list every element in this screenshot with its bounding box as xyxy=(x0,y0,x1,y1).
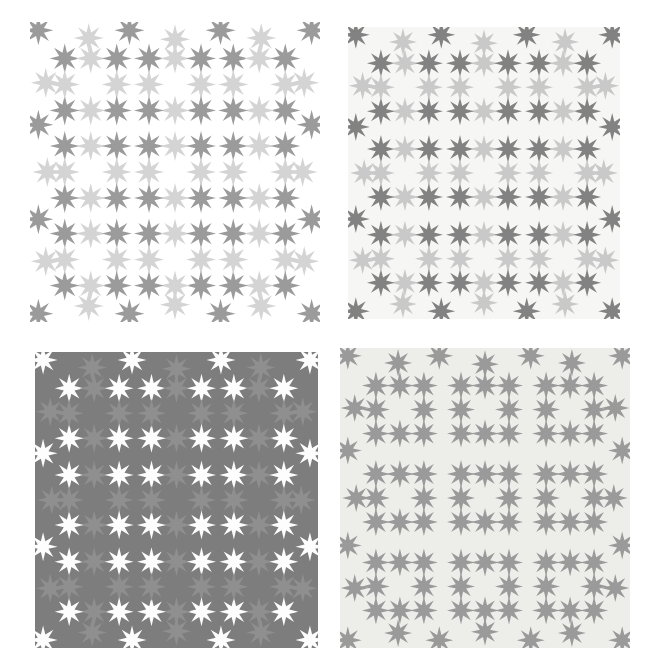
star-perimeter-icon xyxy=(598,297,620,319)
star-corner-icon xyxy=(219,597,248,626)
star-corner-icon xyxy=(367,183,395,211)
star-corner-icon xyxy=(362,508,390,536)
star-edge-icon xyxy=(105,486,134,515)
star-perimeter-icon xyxy=(36,574,65,603)
star-perimeter-icon xyxy=(348,297,370,319)
star-perimeter-icon xyxy=(349,72,377,100)
star-edge-icon xyxy=(391,221,419,249)
star-corner-icon xyxy=(218,183,248,213)
star-perimeter-icon xyxy=(342,484,370,512)
panel-top-left[interactable] xyxy=(30,22,320,322)
star-perimeter-icon xyxy=(118,625,147,648)
star-edge-icon xyxy=(134,245,164,275)
star-perimeter-icon xyxy=(288,397,317,426)
star-corner-icon xyxy=(186,271,216,301)
star-ring xyxy=(447,460,523,536)
star-corner-icon xyxy=(219,424,248,453)
star-perimeter-icon xyxy=(513,27,541,49)
star-edge-icon xyxy=(134,157,164,187)
star-corner-icon xyxy=(580,420,608,448)
star-corner-icon xyxy=(137,511,166,540)
star-perimeter-icon xyxy=(551,290,579,318)
panel-bottom-right-svg xyxy=(340,348,630,648)
star-edge-icon xyxy=(532,484,560,512)
star-perimeter-icon xyxy=(246,23,276,53)
star-edge-icon xyxy=(410,484,438,512)
star-perimeter-icon xyxy=(384,349,412,377)
star-edge-icon xyxy=(494,159,522,187)
star-ring-group xyxy=(50,43,301,300)
star-corner-icon xyxy=(187,374,216,403)
star-corner-icon xyxy=(415,97,443,125)
star-perimeter-icon xyxy=(206,625,235,648)
star-perimeter-icon xyxy=(517,626,545,648)
star-perimeter-icon xyxy=(160,290,190,320)
star-corner-icon xyxy=(137,461,166,490)
star-corner-icon xyxy=(218,95,248,125)
star-corner-icon xyxy=(573,49,601,77)
star-edge-icon xyxy=(494,245,522,273)
star-edge-icon xyxy=(219,486,248,515)
star-perimeter-icon xyxy=(30,299,53,322)
star-perimeter-icon xyxy=(295,532,318,561)
panel-bottom-left[interactable] xyxy=(35,352,318,648)
star-ring xyxy=(447,548,523,624)
star-perimeter-icon xyxy=(348,27,370,49)
panel-top-right[interactable] xyxy=(348,27,620,319)
star-ring xyxy=(219,374,298,453)
star-ring xyxy=(137,547,216,626)
star-corner-icon xyxy=(446,269,474,297)
star-edge-icon xyxy=(556,548,584,576)
star-corner-icon xyxy=(50,43,80,73)
star-perimeter-icon xyxy=(295,352,318,375)
star-edge-icon xyxy=(549,135,577,163)
star-corner-icon xyxy=(495,420,523,448)
star-edge-icon xyxy=(556,372,584,400)
star-corner-icon xyxy=(105,374,134,403)
star-edge-icon xyxy=(386,548,414,576)
star-edge-icon xyxy=(76,131,106,161)
star-corner-icon xyxy=(102,183,132,213)
star-edge-icon xyxy=(160,95,190,125)
star-corner-icon xyxy=(532,596,560,624)
star-ring xyxy=(362,460,438,536)
star-perimeter-icon xyxy=(32,157,62,187)
star-perimeter-icon xyxy=(427,297,455,319)
star-edge-icon xyxy=(447,396,475,424)
star-perimeter-icon xyxy=(295,439,318,468)
star-corner-icon xyxy=(580,548,608,576)
star-corner-icon xyxy=(55,511,84,540)
star-edge-icon xyxy=(80,597,109,626)
star-edge-icon xyxy=(386,372,414,400)
star-corner-icon xyxy=(270,183,300,213)
panel-top-left-canvas xyxy=(30,22,320,322)
star-corner-icon xyxy=(269,597,298,626)
star-corner-icon xyxy=(415,135,443,163)
star-ring xyxy=(218,43,300,125)
star-corner-icon xyxy=(446,221,474,249)
star-corner-icon xyxy=(525,135,553,163)
star-edge-icon xyxy=(76,95,106,125)
star-perimeter-icon xyxy=(608,348,630,370)
star-ring xyxy=(446,135,522,211)
star-corner-icon xyxy=(525,221,553,249)
star-perimeter-icon xyxy=(598,113,620,141)
panel-bottom-right[interactable] xyxy=(340,348,630,648)
star-corner-icon xyxy=(186,131,216,161)
star-perimeter-icon xyxy=(35,352,58,375)
star-perimeter-icon xyxy=(289,68,319,98)
star-perimeter-icon xyxy=(118,352,147,375)
star-corner-icon xyxy=(573,183,601,211)
star-perimeter-icon xyxy=(600,484,628,512)
star-ring xyxy=(525,221,601,297)
star-perimeter-icon xyxy=(608,531,630,559)
star-edge-icon xyxy=(525,159,553,187)
star-corner-icon xyxy=(447,596,475,624)
star-perimeter-icon xyxy=(590,159,618,187)
star-ring xyxy=(50,43,132,125)
star-edge-icon xyxy=(470,135,498,163)
star-corner-icon xyxy=(219,511,248,540)
star-perimeter-icon xyxy=(35,532,58,561)
star-corner-icon xyxy=(55,374,84,403)
star-perimeter-icon xyxy=(341,394,369,422)
